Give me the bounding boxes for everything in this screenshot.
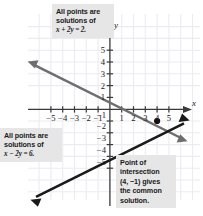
svg-text:−2: −2 bbox=[82, 113, 91, 123]
svg-text:5: 5 bbox=[101, 45, 105, 55]
callout-bottom-line-3: (4, −1) gives bbox=[120, 177, 172, 186]
callout-top-line-3: x + 2y = 2. bbox=[56, 26, 110, 35]
callout-left-line-1: All points are bbox=[4, 131, 58, 140]
svg-text:−5: −5 bbox=[97, 157, 106, 167]
svg-text:1: 1 bbox=[120, 113, 124, 123]
svg-text:3: 3 bbox=[101, 69, 105, 79]
svg-text:−2: −2 bbox=[97, 121, 106, 131]
svg-text:3: 3 bbox=[143, 113, 147, 123]
callout-left-line-3: x − 2y = 6. bbox=[4, 150, 58, 159]
svg-text:−4: −4 bbox=[58, 113, 68, 123]
callout-top-line-2: solutions of bbox=[56, 16, 110, 25]
svg-text:2: 2 bbox=[131, 113, 135, 123]
callout-bottom-line-4: the common bbox=[120, 186, 172, 195]
svg-text:−4: −4 bbox=[97, 145, 107, 155]
svg-text:2: 2 bbox=[101, 81, 105, 91]
svg-text:4: 4 bbox=[155, 113, 160, 123]
callout-top-line-1: All points are bbox=[56, 7, 110, 16]
callout-bottom-line-2: intersection bbox=[120, 167, 172, 176]
callout-bottom-line-5: solution. bbox=[120, 196, 172, 205]
svg-text:4: 4 bbox=[101, 57, 106, 67]
x-axis-label: x bbox=[191, 98, 196, 108]
callout-bottom-line-1: Point of bbox=[120, 158, 172, 167]
callout-intersection: Point of intersection (4, −1) gives the … bbox=[116, 155, 176, 208]
y-tick-labels-positive: 5 4 3 2 1 bbox=[101, 45, 106, 102]
callout-left-line-2: solutions of bbox=[4, 140, 58, 149]
callout-equation-2: All points are solutions of x − 2y = 6. bbox=[0, 128, 62, 162]
y-tick-labels-negative: −1 −2 −3 −4 −5 bbox=[97, 110, 107, 167]
callout-equation-1: All points are solutions of x + 2y = 2. bbox=[52, 4, 114, 38]
svg-text:1: 1 bbox=[101, 92, 105, 102]
svg-text:5: 5 bbox=[167, 113, 171, 123]
svg-text:−3: −3 bbox=[97, 133, 106, 143]
svg-text:−5: −5 bbox=[46, 113, 55, 123]
x-tick-labels-negative: −5 −4 −3 −2 −1 bbox=[46, 113, 102, 123]
svg-text:−1: −1 bbox=[97, 110, 106, 120]
graph-figure: x y −5 −4 −3 −2 −1 1 2 3 4 5 5 4 3 2 1 −… bbox=[0, 0, 203, 216]
svg-text:−3: −3 bbox=[70, 113, 79, 123]
